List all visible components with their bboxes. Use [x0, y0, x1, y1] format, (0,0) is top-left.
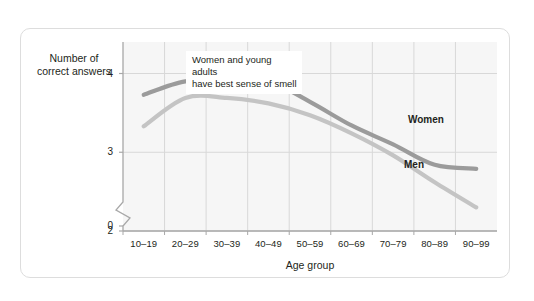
- x-tick-label: 60–69: [331, 238, 373, 249]
- x-tick-label: 20–29: [165, 238, 207, 249]
- plot-area: [123, 42, 497, 231]
- x-tick-label: 50–59: [289, 238, 331, 249]
- series-label-men: Men: [404, 159, 424, 170]
- series-label-women: Women: [408, 114, 444, 125]
- x-tick-label: 10–19: [123, 238, 165, 249]
- plot-background: [123, 42, 497, 231]
- x-tick-label: 80–89: [414, 238, 456, 249]
- x-tick-label: 90–99: [455, 238, 497, 249]
- chart-annotation: Women and young adultshave best sense of…: [186, 51, 302, 94]
- x-tick-label: 70–79: [372, 238, 414, 249]
- x-axis-title: Age group: [123, 259, 497, 272]
- y-tick-label: 2: [97, 225, 113, 236]
- x-tick-label: 30–39: [206, 238, 248, 249]
- y-tick-label: 3: [97, 146, 113, 157]
- x-tick-label: 40–49: [248, 238, 290, 249]
- y-tick-label: 4: [97, 68, 113, 79]
- chart-figure: Number ofcorrect answers Age group 0234 …: [0, 0, 534, 301]
- line-chart-canvas: [0, 0, 534, 301]
